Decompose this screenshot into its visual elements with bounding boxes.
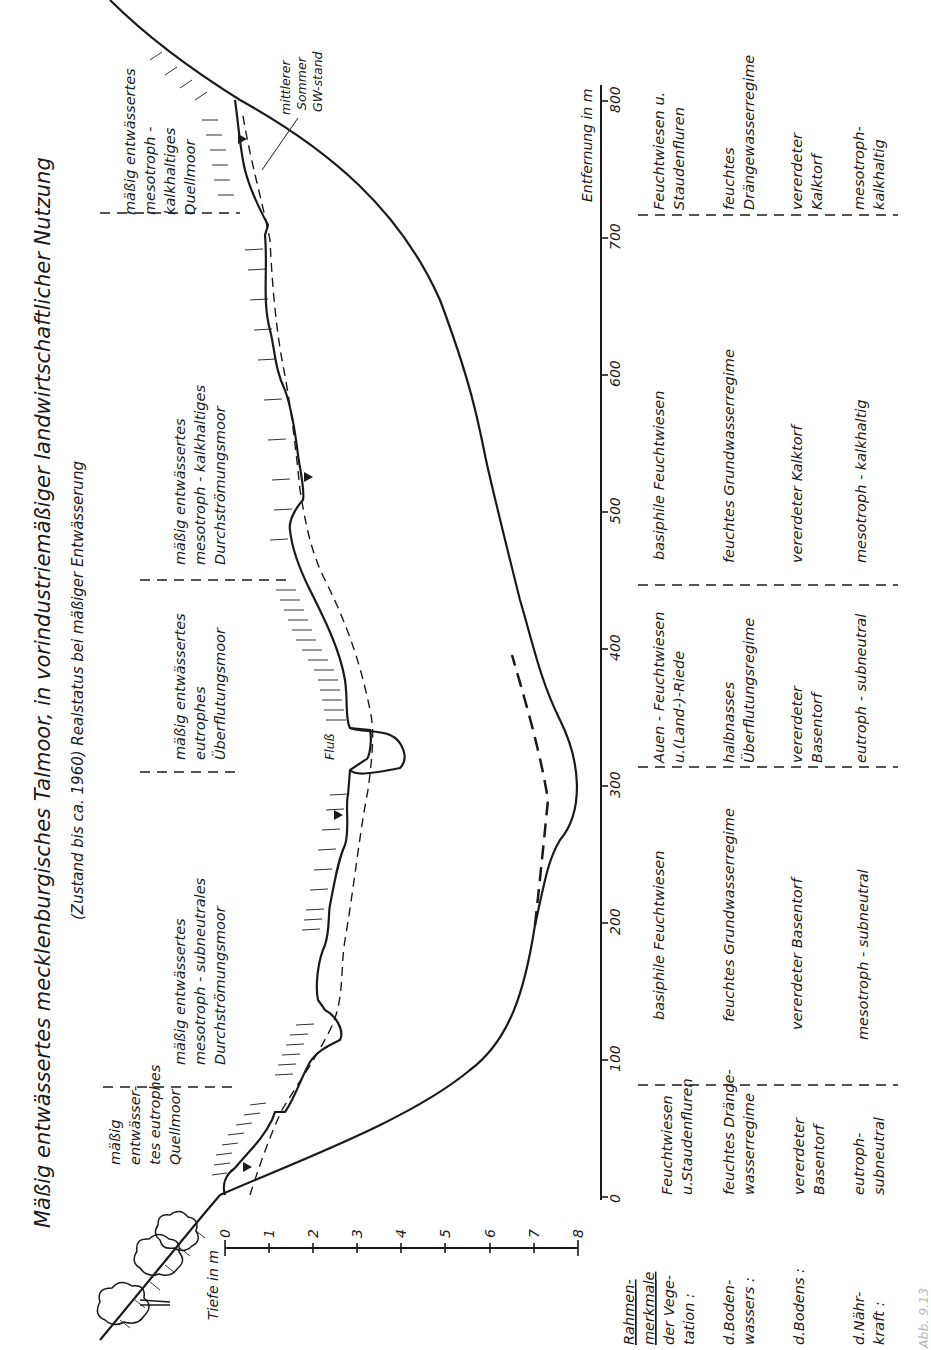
water-level-triangle-icon	[304, 472, 313, 482]
row-label-nutrients: d.Nähr-	[851, 1292, 867, 1345]
river-channel	[350, 728, 405, 774]
svg-text:halbnasses: halbnasses	[721, 682, 737, 763]
svg-text:kraft :: kraft :	[871, 1301, 887, 1345]
svg-text:basiphile Feuchtwiesen: basiphile Feuchtwiesen	[651, 391, 667, 560]
svg-text:2: 2	[305, 1229, 321, 1238]
zone-label-durchstroemungsmoor-subneutral: mäßig entwässertes mesotroph - subneutra…	[172, 877, 228, 1065]
svg-text:500: 500	[607, 497, 623, 524]
svg-text:wasserregime: wasserregime	[741, 1093, 757, 1195]
svg-text:kalkhaltig: kalkhaltig	[871, 139, 887, 210]
talmoor-cross-section-figure: Mäßig entwässertes mecklenburgisches Tal…	[0, 0, 931, 1350]
svg-text:mesotroph - kalkhaltig: mesotroph - kalkhaltig	[853, 399, 869, 563]
attributes-table: Rahmen- merkmale der Vege- tation : d.Bo…	[621, 55, 898, 1345]
table-column-5: Feuchtwiesen u. Staudenfluren feuchtes D…	[651, 55, 887, 210]
svg-text:mesotroph - kalkhaltiges: mesotroph - kalkhaltiges	[192, 385, 208, 565]
svg-text:mäßig entwässertes: mäßig entwässertes	[172, 918, 188, 1065]
svg-text:8: 8	[570, 1229, 586, 1238]
water-level-triangle-icon	[243, 1162, 252, 1172]
svg-text:u.(Land-)-Riede: u.(Land-)-Riede	[671, 651, 687, 763]
svg-text:400: 400	[607, 634, 623, 661]
svg-text:GW-stand: GW-stand	[310, 51, 325, 112]
svg-text:0: 0	[607, 1194, 623, 1203]
table-title: Rahmen-	[621, 1279, 637, 1345]
svg-text:vererdeter Kalktorf: vererdeter Kalktorf	[789, 424, 805, 563]
svg-text:6: 6	[482, 1229, 498, 1238]
groundwater-leader-line	[262, 118, 298, 170]
svg-text:Durchströmungsmoor: Durchströmungsmoor	[212, 405, 228, 565]
svg-text:mäßig entwässertes: mäßig entwässertes	[122, 68, 138, 215]
figure-subtitle: (Zustand bis ca. 1960) Realstatus bei mä…	[69, 461, 87, 920]
svg-text:Feuchtwiesen: Feuchtwiesen	[659, 1095, 675, 1195]
row-label-water: d.Boden-	[721, 1280, 737, 1345]
table-column-1: Feuchtwiesen u.Staudenfluren feuchtes Dr…	[659, 1069, 887, 1195]
table-header-column: Rahmen- merkmale der Vege- tation : d.Bo…	[621, 1268, 887, 1345]
svg-text:Überflutungsmoor: Überflutungsmoor	[211, 627, 228, 760]
figure-title-block: Mäßig entwässertes mecklenburgisches Tal…	[31, 157, 87, 1228]
distance-axis-label: Entfernung in m	[579, 89, 595, 202]
svg-text:entwässer-: entwässer-	[127, 1086, 143, 1165]
basin-substrate-dashed	[512, 655, 548, 925]
svg-text:feuchtes Grundwasserregime: feuchtes Grundwasserregime	[721, 808, 737, 1022]
svg-text:Quellmoor: Quellmoor	[167, 1089, 183, 1165]
svg-text:mesotroph-: mesotroph-	[851, 126, 867, 210]
svg-text:vererdeter: vererdeter	[791, 1117, 807, 1195]
svg-text:5: 5	[437, 1229, 453, 1238]
svg-text:700: 700	[607, 223, 623, 250]
svg-text:mesotroph - subneutrales: mesotroph - subneutrales	[192, 877, 208, 1065]
water-level-triangle-icon	[334, 810, 343, 820]
svg-text:Kalktorf: Kalktorf	[809, 152, 825, 210]
svg-text:7: 7	[526, 1229, 542, 1238]
svg-text:mäßig entwässertes: mäßig entwässertes	[172, 418, 188, 565]
svg-text:eutroph - subneutral: eutroph - subneutral	[853, 614, 869, 763]
svg-text:kalkhaltiges: kalkhaltiges	[162, 127, 178, 215]
svg-text:u.Staudenfluren: u.Staudenfluren	[679, 1078, 695, 1195]
svg-text:wassers :: wassers :	[741, 1277, 757, 1345]
zone-label-ueberflutungsmoor: mäßig entwässertes eutrophes Überflutung…	[172, 613, 228, 760]
svg-text:4: 4	[393, 1229, 409, 1238]
svg-text:mäßig: mäßig	[107, 1120, 123, 1165]
water-level-triangle-icon	[238, 134, 247, 144]
svg-text:vererdeter: vererdeter	[789, 132, 805, 210]
figure-caption: Abb. 9.13	[916, 1288, 931, 1349]
svg-text:eutrophes: eutrophes	[192, 686, 208, 760]
svg-text:Drängewasserregime: Drängewasserregime	[741, 55, 757, 210]
svg-text:Basentorf: Basentorf	[809, 691, 825, 763]
svg-text:Basentorf: Basentorf	[811, 1123, 827, 1195]
groundwater-annotation: mittlerer Sommer GW-stand	[278, 51, 325, 115]
svg-text:mesotroph -: mesotroph -	[142, 127, 158, 215]
tree-icons	[97, 1211, 198, 1324]
svg-text:0: 0	[217, 1229, 233, 1238]
svg-text:3: 3	[349, 1229, 365, 1238]
distance-axis: 0 100 200 300 400 500 600 700 800 Entfer…	[579, 85, 623, 1203]
svg-text:600: 600	[607, 360, 623, 387]
table-column-2: basiphile Feuchtwiesen feuchtes Grundwas…	[651, 808, 871, 1040]
table-column-3: Auen - Feuchtwiesen u.(Land-)-Riede halb…	[651, 612, 869, 764]
table-column-4: basiphile Feuchtwiesen feuchtes Grundwas…	[651, 349, 869, 563]
svg-text:Sommer: Sommer	[294, 56, 309, 110]
svg-text:Staudenfluren: Staudenfluren	[671, 107, 687, 210]
svg-text:800: 800	[607, 86, 623, 113]
svg-text:mäßig entwässertes: mäßig entwässertes	[172, 613, 188, 760]
groundwater-markers	[238, 134, 343, 1172]
svg-text:Auen - Feuchtwiesen: Auen - Feuchtwiesen	[651, 612, 667, 764]
peat-surface	[224, 100, 371, 1195]
row-label-vegetation: der Vege-	[661, 1275, 677, 1345]
river-label: Fluß	[322, 733, 337, 760]
svg-text:300: 300	[607, 771, 623, 798]
svg-text:mesotroph - subneutral: mesotroph - subneutral	[855, 869, 871, 1040]
svg-text:tation :: tation :	[681, 1293, 697, 1345]
depth-axis-label: Tiefe in m	[205, 1250, 221, 1320]
svg-text:subneutral: subneutral	[871, 1117, 887, 1195]
figure-title: Mäßig entwässertes mecklenburgisches Tal…	[31, 157, 55, 1228]
svg-text:feuchtes Dränge-: feuchtes Dränge-	[721, 1069, 737, 1195]
zone-label-quellmoor-eutroph: mäßig entwässer- tes eutrophes Quellmoor	[107, 1064, 183, 1165]
svg-text:100: 100	[607, 1045, 623, 1072]
depth-axis: Tiefe in m 0 1 2 3 4 5 6 7 8	[205, 1229, 586, 1320]
tree-icon	[155, 1211, 198, 1250]
svg-text:vererdeter Basentorf: vererdeter Basentorf	[789, 876, 805, 1030]
row-label-soil: d.Bodens :	[791, 1268, 807, 1345]
zone-labels: mäßig entwässer- tes eutrophes Quellmoor…	[107, 68, 228, 1165]
zone-label-quellmoor-kalkhaltig: mäßig entwässertes mesotroph - kalkhalti…	[122, 68, 198, 215]
svg-text:Quellmoor: Quellmoor	[182, 139, 198, 215]
svg-text:Überflutungsregime: Überflutungsregime	[740, 618, 757, 763]
